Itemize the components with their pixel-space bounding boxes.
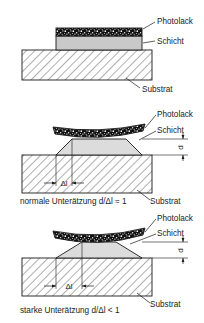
leader-photoresist-top xyxy=(143,22,155,29)
label-layer-bottom: Schicht xyxy=(157,229,185,238)
leader-layer-top xyxy=(143,41,155,43)
etched-layer-middle xyxy=(56,139,142,155)
dim-label-d-bottom: d xyxy=(176,248,185,252)
caption-normal-undercut: normale Unterätzung d/Δl ≈ 1 xyxy=(20,197,127,206)
dim-label-d-middle: d xyxy=(176,145,185,149)
label-substrate-bottom: Substrat xyxy=(150,300,181,309)
photoresist-band-bottom xyxy=(53,228,145,242)
substrate-block-top xyxy=(22,50,152,80)
dim-label-dl-middle: Δl xyxy=(60,179,67,188)
caption-strong-undercut: starke Unterätzung d/Δl < 1 xyxy=(20,306,120,315)
label-substrate-top: Substrat xyxy=(142,85,173,94)
label-photoresist-bottom: Photolack xyxy=(157,214,194,223)
dim-label-dl-bottom: Δl xyxy=(65,282,72,291)
substrate-block-middle xyxy=(22,155,152,193)
undercut-etching-diagram: Photolack Schicht Substrat Photolack Sch… xyxy=(0,0,204,323)
photoresist-block-top xyxy=(56,28,142,36)
layer-block-top xyxy=(56,36,142,50)
label-layer-top: Schicht xyxy=(157,37,185,46)
leader-photoresist-bottom xyxy=(145,219,156,232)
leader-layer-middle xyxy=(139,131,156,140)
label-photoresist-top: Photolack xyxy=(157,17,194,26)
label-photoresist-middle: Photolack xyxy=(157,110,194,119)
label-layer-middle: Schicht xyxy=(157,126,185,135)
panel-normal-undercut: Photolack Schicht Substrat d Δl normale … xyxy=(20,110,194,206)
substrate-block-bottom xyxy=(22,258,152,296)
label-substrate-middle: Substrat xyxy=(150,197,181,206)
photoresist-band-middle xyxy=(53,124,145,137)
etched-layer-bottom xyxy=(56,242,142,258)
panel-strong-undercut: Photolack Schicht Substrat d Δl starke U… xyxy=(20,214,194,315)
leader-photoresist-middle xyxy=(145,115,156,128)
panel-unetched-stack: Photolack Schicht Substrat xyxy=(22,17,194,94)
